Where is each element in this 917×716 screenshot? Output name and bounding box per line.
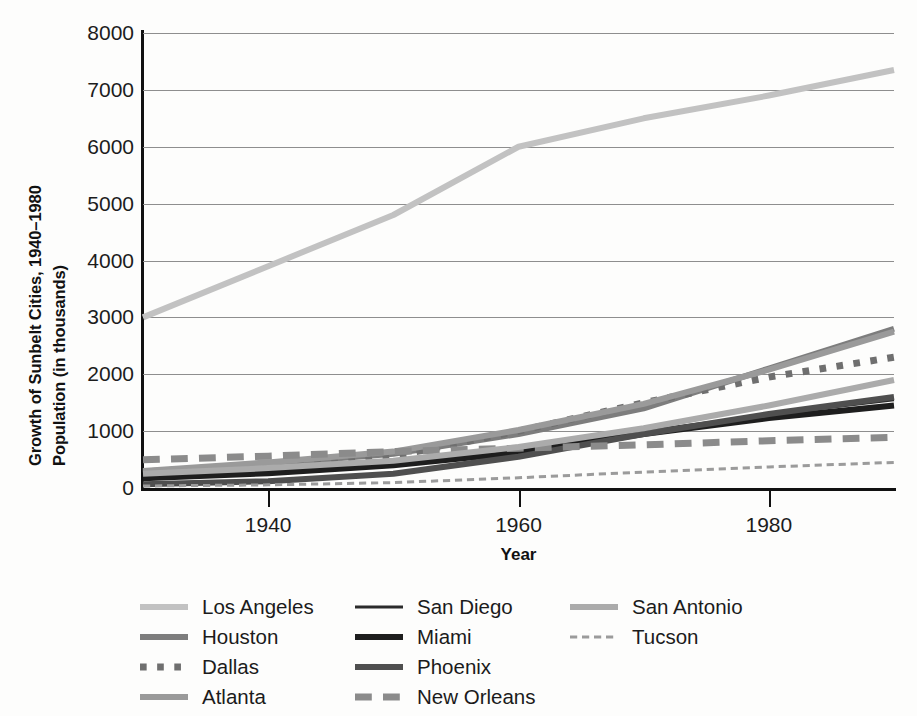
- legend-item-houston[interactable]: Houston: [140, 622, 314, 652]
- series-lines: [143, 33, 894, 488]
- y-tick-label-0: 0: [14, 476, 134, 500]
- legend-label: New Orleans: [417, 685, 536, 709]
- legend-item-phoenix[interactable]: Phoenix: [355, 652, 536, 682]
- legend-swatch-icon: [140, 630, 188, 644]
- legend-item-tucson[interactable]: Tucson: [570, 622, 743, 652]
- legend-label: Dallas: [202, 655, 259, 679]
- legend-column-2: San AntonioTucson: [570, 592, 743, 652]
- x-tick-mark-1960: [519, 491, 521, 507]
- legend-swatch-icon: [355, 630, 403, 644]
- x-tick-label-1940: 1940: [223, 513, 313, 537]
- legend-swatch-icon: [140, 600, 188, 614]
- plot-area: 194019601980: [143, 33, 894, 488]
- legend-label: Houston: [202, 625, 278, 649]
- legend-label: Los Angeles: [202, 595, 314, 619]
- chart-legend: Los AngelesHoustonDallasAtlantaSan Diego…: [140, 592, 880, 712]
- x-tick-label-1980: 1980: [724, 513, 814, 537]
- legend-swatch-icon: [355, 660, 403, 674]
- legend-label: Miami: [417, 625, 472, 649]
- y-tick-label-1000: 1000: [14, 419, 134, 443]
- legend-swatch-icon: [355, 690, 403, 704]
- y-tick-label-8000: 8000: [14, 21, 134, 45]
- legend-column-1: San DiegoMiamiPhoenixNew Orleans: [355, 592, 536, 712]
- legend-swatch-icon: [570, 600, 618, 614]
- legend-item-new-orleans[interactable]: New Orleans: [355, 682, 536, 712]
- legend-item-los-angeles[interactable]: Los Angeles: [140, 592, 314, 622]
- x-tick-mark-1980: [769, 491, 771, 507]
- legend-column-0: Los AngelesHoustonDallasAtlanta: [140, 592, 314, 712]
- legend-item-dallas[interactable]: Dallas: [140, 652, 314, 682]
- y-tick-label-3000: 3000: [14, 305, 134, 329]
- x-axis-title: Year: [143, 545, 894, 565]
- x-tick-mark-1940: [268, 491, 270, 507]
- legend-item-miami[interactable]: Miami: [355, 622, 536, 652]
- y-tick-label-4000: 4000: [14, 249, 134, 273]
- legend-swatch-icon: [355, 600, 403, 614]
- chart-figure: Growth of Sunbelt Cities, 1940–1980 Popu…: [0, 0, 917, 716]
- legend-item-san-diego[interactable]: San Diego: [355, 592, 536, 622]
- legend-item-atlanta[interactable]: Atlanta: [140, 682, 314, 712]
- y-tick-label-7000: 7000: [14, 78, 134, 102]
- legend-swatch-icon: [140, 660, 188, 674]
- legend-label: San Diego: [417, 595, 513, 619]
- legend-label: San Antonio: [632, 595, 743, 619]
- legend-label: Tucson: [632, 625, 698, 649]
- y-axis-tick-labels: 010002000300040005000600070008000: [8, 33, 134, 488]
- legend-item-san-antonio[interactable]: San Antonio: [570, 592, 743, 622]
- legend-swatch-icon: [570, 630, 618, 644]
- series-line-los-angeles: [143, 70, 894, 317]
- y-tick-label-5000: 5000: [14, 192, 134, 216]
- x-tick-label-1960: 1960: [474, 513, 564, 537]
- y-tick-label-2000: 2000: [14, 362, 134, 386]
- y-tick-label-6000: 6000: [14, 135, 134, 159]
- legend-swatch-icon: [140, 690, 188, 704]
- legend-label: Atlanta: [202, 685, 266, 709]
- legend-label: Phoenix: [417, 655, 491, 679]
